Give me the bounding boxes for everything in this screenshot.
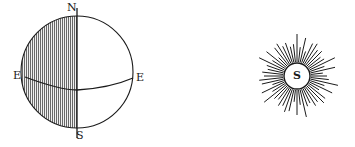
sun-label: S bbox=[293, 70, 301, 81]
label-east-left: E bbox=[13, 70, 21, 81]
sun-ray bbox=[311, 73, 323, 74]
sun-ray bbox=[307, 86, 324, 103]
sun-ray bbox=[299, 90, 301, 105]
sun-ray bbox=[268, 69, 284, 73]
sun-ray bbox=[290, 47, 294, 63]
sun-ray bbox=[299, 47, 301, 62]
sun-ray bbox=[308, 85, 325, 99]
label-south: S bbox=[76, 130, 84, 141]
globe bbox=[21, 8, 133, 138]
diagram-canvas bbox=[0, 0, 355, 147]
label-east-right: E bbox=[136, 72, 144, 83]
sun-ray bbox=[294, 90, 295, 102]
label-north: N bbox=[67, 2, 77, 13]
